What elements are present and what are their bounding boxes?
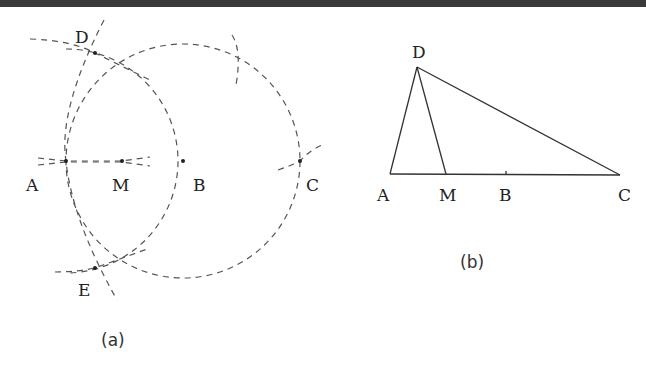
arc-mark-top — [232, 35, 238, 85]
segment-dc — [417, 67, 620, 175]
line-am-lower — [38, 162, 150, 166]
point-a — [64, 159, 68, 163]
label-d: D — [75, 27, 89, 47]
point-m — [120, 159, 124, 163]
caption-a: (a) — [101, 330, 125, 350]
figure-a: D A M B C E (a) — [25, 20, 322, 350]
label-a: A — [376, 185, 390, 205]
label-c: C — [618, 185, 631, 205]
label-b: B — [193, 175, 206, 195]
point-d — [93, 51, 97, 55]
label-a: A — [25, 175, 39, 195]
label-c: C — [306, 175, 319, 195]
label-d: D — [412, 42, 426, 62]
label-e: E — [78, 280, 90, 300]
label-m: M — [439, 185, 456, 205]
line-am-upper — [38, 157, 150, 161]
segment-dm — [417, 67, 446, 174]
arc-through-a — [65, 20, 117, 300]
point-c — [298, 159, 302, 163]
segment-ad — [390, 67, 417, 174]
caption-b: (b) — [460, 252, 484, 272]
point-b — [181, 159, 185, 163]
segment-ac — [390, 174, 620, 175]
label-b: B — [499, 185, 512, 205]
arc-near-d — [30, 39, 150, 80]
point-e — [93, 266, 97, 270]
figure-b: D A M B C (b) — [376, 42, 631, 272]
label-m: M — [112, 175, 129, 195]
geometry-diagram: D A M B C E (a) D A M B C (b) — [0, 0, 646, 370]
